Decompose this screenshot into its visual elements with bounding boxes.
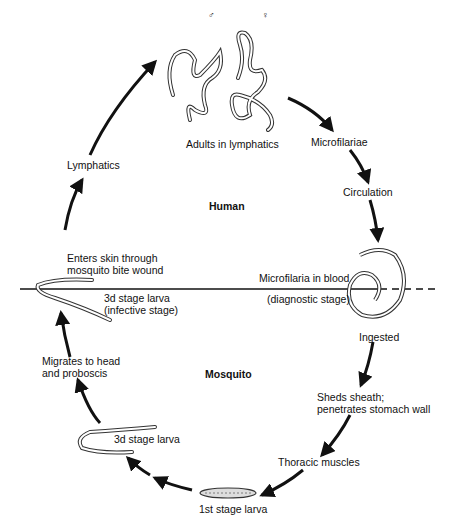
first-stage-larva-illustration [200, 488, 256, 498]
arrow-sheds-to-thoracic [322, 415, 350, 455]
male-symbol: ♂ [208, 10, 215, 20]
arrow-lymphatics-to-adults [90, 62, 155, 155]
arrow-ingested-to-sheds [361, 342, 373, 385]
arrow-first-to-third-b [128, 458, 150, 475]
label-third-stage-larva: 3d stage larva [114, 433, 180, 445]
label-sheds-sheath: Sheds sheath; penetrates stomach wall [317, 391, 430, 415]
arrow-thoracic-to-first [262, 470, 303, 495]
label-enters-skin: Enters skin through mosquito bite wound [67, 252, 163, 276]
label-lymphatics: Lymphatics [67, 159, 120, 171]
infective-larva-illustration [38, 280, 110, 320]
label-ingested: Ingested [359, 331, 399, 343]
region-label-human: Human [209, 200, 245, 212]
label-adults-in-lymphatics: Adults in lymphatics [186, 138, 279, 150]
arrow-migrates-to-infective [61, 313, 70, 357]
microfilaria-illustration [349, 250, 404, 317]
label-migrates-to-head: Migrates to head and proboscis [42, 355, 120, 379]
arrow-third-to-migrates [78, 380, 100, 423]
label-microfilariae: Microfilariae [311, 136, 368, 148]
arrow-enters-to-lymphatics [65, 180, 82, 230]
region-label-mosquito: Mosquito [205, 368, 252, 380]
label-diagnostic-stage: (diagnostic stage) [267, 293, 350, 305]
label-microfilaria-in-blood: Microfilaria in blood [259, 272, 349, 284]
label-infective-stage: 3d stage larva (infective stage) [104, 292, 178, 316]
label-thoracic-muscles: Thoracic muscles [278, 456, 360, 468]
label-first-stage-larva: 1st stage larva [199, 503, 267, 515]
arrow-circulation-to-blood [370, 200, 378, 240]
female-symbol: ♀ [262, 10, 269, 20]
label-circulation: Circulation [343, 186, 393, 198]
arrow-adults-to-microfilariae [288, 98, 332, 130]
arrow-first-to-third-a [155, 478, 192, 490]
arrow-microfilariae-to-circulation [350, 150, 368, 182]
adult-worms-illustration [169, 33, 272, 131]
